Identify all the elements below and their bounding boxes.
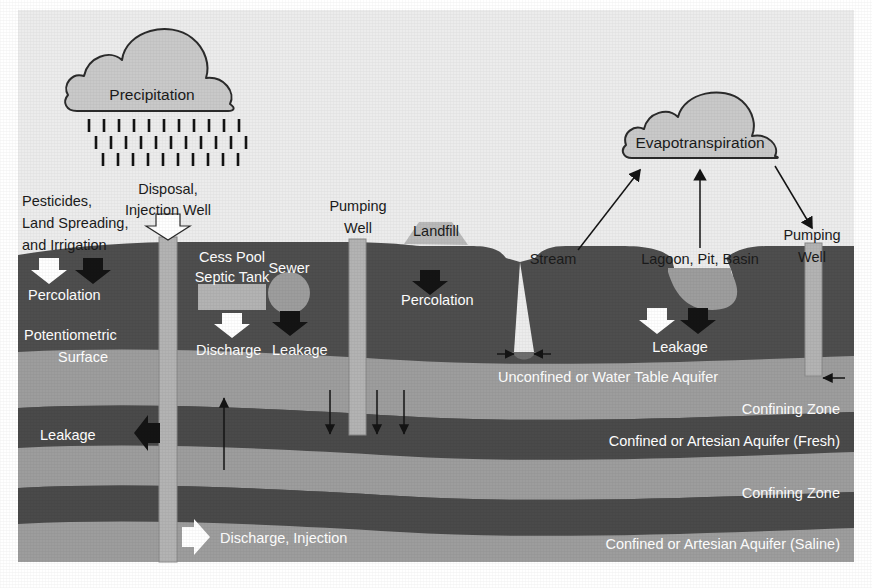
label-leakage-septic: Leakage xyxy=(272,342,328,358)
label-septic-tank: Septic Tank xyxy=(195,269,270,285)
label-injection-well-line-2: Injection Well xyxy=(125,202,211,218)
stratum-label-confining-zone-upper: Confining Zone xyxy=(742,401,840,417)
label-pumping-well-right-line-1: Pumping xyxy=(783,227,840,243)
label-pesticides-line-2: Land Spreading, xyxy=(22,215,128,231)
label-discharge: Discharge xyxy=(196,342,261,358)
label-disposal-line-1: Disposal, xyxy=(138,181,198,197)
stratum-label-confining-zone-lower: Confining Zone xyxy=(742,485,840,501)
diagram-canvas: Precipitation xyxy=(0,0,872,588)
sewer-pipe-icon xyxy=(268,272,310,314)
stratum-label-confined-aquifer-fresh: Confined or Artesian Aquifer (Fresh) xyxy=(609,433,840,449)
label-pesticides-line-3: and Irrigation xyxy=(22,237,107,253)
label-lagoon-pit-basin: Lagoon, Pit, Basin xyxy=(641,251,759,267)
well-casing-icon-injection xyxy=(159,237,177,562)
label-discharge-injection: Discharge, Injection xyxy=(220,530,347,546)
label-landfill: Landfill xyxy=(413,223,459,239)
label-percolation-left: Percolation xyxy=(28,287,101,303)
label-pumping-well-center-line-1: Pumping xyxy=(329,198,386,214)
label-potentiometric-line-2: Surface xyxy=(58,349,108,365)
label-pumping-well-right-line-2: Well xyxy=(798,249,826,265)
label-cess-pool: Cess Pool xyxy=(199,249,265,265)
label-leakage-lagoon: Leakage xyxy=(652,339,708,355)
injection-well-casing xyxy=(159,237,177,562)
label-stream: Stream xyxy=(530,251,577,267)
sewer-pipe-body xyxy=(268,272,310,314)
cloud-label-evapotranspiration: Evapotranspiration xyxy=(635,134,764,151)
label-pumping-well-center-line-2: Well xyxy=(344,220,372,236)
well-casing-icon-pumping-center xyxy=(349,239,366,435)
stratum-label-confined-aquifer-saline: Confined or Artesian Aquifer (Saline) xyxy=(605,536,840,552)
label-potentiometric-line-1: Potentiometric xyxy=(24,327,117,343)
pumping-well-center-casing xyxy=(349,239,366,435)
septic-tank-body xyxy=(198,284,266,310)
stratum-label-unconfined-aquifer: Unconfined or Water Table Aquifer xyxy=(498,369,718,385)
cloud-label-precipitation: Precipitation xyxy=(109,86,194,103)
label-sewer: Sewer xyxy=(268,260,309,276)
septic-tank-icon xyxy=(198,284,266,310)
groundwater-diagram: Precipitation xyxy=(0,0,872,588)
label-pesticides-line-1: Pesticides, xyxy=(22,193,92,209)
label-percolation-landfill: Percolation xyxy=(401,292,474,308)
label-leakage-left: Leakage xyxy=(40,427,96,443)
